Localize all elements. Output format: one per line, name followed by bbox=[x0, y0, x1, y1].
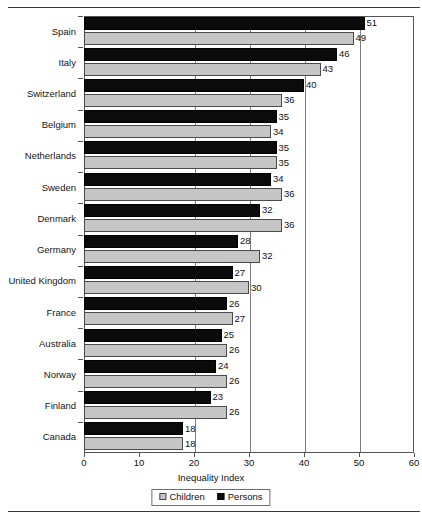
bar-persons: 26 bbox=[84, 297, 227, 310]
chart-legend: ChildrenPersons bbox=[151, 489, 270, 506]
bar-persons: 34 bbox=[84, 173, 271, 186]
category-label-finland: Finland bbox=[45, 401, 76, 411]
category-tick bbox=[78, 266, 83, 267]
x-axis-title: Inequality Index bbox=[0, 472, 422, 483]
x-axis-tick-labels: 0102030405060 bbox=[84, 458, 414, 472]
bar-persons: 23 bbox=[84, 391, 211, 404]
category-tick bbox=[78, 422, 83, 423]
category-tick bbox=[78, 297, 83, 298]
figure-page: SpainItalySwitzerlandBelgiumNetherlandsS… bbox=[0, 0, 422, 518]
bar-children: 32 bbox=[84, 250, 260, 263]
bar-group: 2627 bbox=[84, 297, 414, 328]
bar-value-label: 26 bbox=[229, 376, 240, 386]
category-label-australia: Australia bbox=[39, 339, 76, 349]
legend-entry-persons: Persons bbox=[218, 492, 263, 502]
category-label-denmark: Denmark bbox=[37, 214, 76, 224]
category-label-belgium: Belgium bbox=[42, 121, 76, 131]
bar-group: 2426 bbox=[84, 359, 414, 390]
category-label-netherlands: Netherlands bbox=[25, 152, 76, 162]
category-label-sweden: Sweden bbox=[42, 183, 76, 193]
bar-value-label: 25 bbox=[224, 330, 235, 340]
bar-children: 26 bbox=[84, 344, 227, 357]
category-label-germany: Germany bbox=[37, 245, 76, 255]
bar-group: 3436 bbox=[84, 172, 414, 203]
x-tick-label-0: 0 bbox=[81, 458, 86, 468]
bar-value-label: 35 bbox=[279, 112, 290, 122]
bar-value-label: 26 bbox=[229, 345, 240, 355]
bar-value-label: 35 bbox=[279, 143, 290, 153]
bar-value-label: 35 bbox=[279, 158, 290, 168]
bar-children: 36 bbox=[84, 94, 282, 107]
legend-label: Children bbox=[169, 492, 204, 502]
bar-persons: 46 bbox=[84, 48, 337, 61]
bar-children: 36 bbox=[84, 188, 282, 201]
bar-group: 5149 bbox=[84, 16, 414, 47]
bar-group: 2730 bbox=[84, 266, 414, 297]
bar-value-label: 26 bbox=[229, 299, 240, 309]
bar-value-label: 36 bbox=[284, 189, 295, 199]
figure-title-clipped bbox=[0, 0, 422, 5]
legend-entry-children: Children bbox=[159, 492, 204, 502]
bar-children: 49 bbox=[84, 32, 354, 45]
bar-children: 26 bbox=[84, 406, 227, 419]
category-tick bbox=[78, 47, 83, 48]
bar-value-label: 40 bbox=[306, 81, 317, 91]
bar-value-label: 24 bbox=[218, 361, 229, 371]
bar-value-label: 32 bbox=[262, 252, 273, 262]
bar-group: 3534 bbox=[84, 110, 414, 141]
category-label-norway: Norway bbox=[44, 370, 76, 380]
category-tick bbox=[78, 78, 83, 79]
bar-group: 2832 bbox=[84, 234, 414, 265]
bar-value-label: 46 bbox=[339, 49, 350, 59]
bar-persons: 18 bbox=[84, 422, 183, 435]
category-label-united-kingdom: United Kingdom bbox=[8, 277, 76, 287]
category-label-switzerland: Switzerland bbox=[27, 89, 76, 99]
bar-group: 4036 bbox=[84, 78, 414, 109]
bar-group: 4643 bbox=[84, 47, 414, 78]
category-tick bbox=[78, 172, 83, 173]
bar-persons: 32 bbox=[84, 204, 260, 217]
bar-value-label: 26 bbox=[229, 408, 240, 418]
bar-children: 18 bbox=[84, 437, 183, 450]
bar-children: 43 bbox=[84, 63, 321, 76]
category-tick bbox=[78, 328, 83, 329]
bar-persons: 25 bbox=[84, 329, 222, 342]
category-tick bbox=[78, 16, 83, 17]
category-tick bbox=[78, 391, 83, 392]
x-tick-label-10: 10 bbox=[134, 458, 145, 468]
bar-value-label: 30 bbox=[251, 283, 262, 293]
bar-children: 27 bbox=[84, 312, 233, 325]
bar-value-label: 43 bbox=[323, 64, 334, 74]
category-tick bbox=[78, 359, 83, 360]
category-tick bbox=[78, 141, 83, 142]
category-label-spain: Spain bbox=[52, 27, 76, 37]
bar-value-label: 23 bbox=[213, 393, 224, 403]
bar-value-label: 36 bbox=[284, 96, 295, 106]
bar-persons: 35 bbox=[84, 141, 277, 154]
bar-children: 35 bbox=[84, 156, 277, 169]
bar-value-label: 34 bbox=[273, 127, 284, 137]
category-axis-labels: SpainItalySwitzerlandBelgiumNetherlandsS… bbox=[0, 16, 80, 453]
bar-children: 36 bbox=[84, 219, 282, 232]
bar-group: 2326 bbox=[84, 390, 414, 421]
x-tick-label-60: 60 bbox=[409, 458, 420, 468]
bar-persons: 51 bbox=[84, 17, 365, 30]
bar-children: 26 bbox=[84, 375, 227, 388]
bar-persons: 35 bbox=[84, 110, 277, 123]
page-rule-top bbox=[8, 7, 420, 8]
bar-value-label: 18 bbox=[185, 439, 196, 449]
x-tick-label-30: 30 bbox=[244, 458, 255, 468]
category-tick bbox=[78, 235, 83, 236]
bar-group: 2526 bbox=[84, 328, 414, 359]
bar-value-label: 36 bbox=[284, 220, 295, 230]
bar-value-label: 28 bbox=[240, 237, 251, 247]
legend-swatch-persons bbox=[218, 493, 225, 500]
category-tick bbox=[78, 203, 83, 204]
bar-series-layer: 5149464340363534353534363236283227302627… bbox=[84, 16, 414, 453]
legend-label: Persons bbox=[228, 492, 263, 502]
bar-value-label: 18 bbox=[185, 424, 196, 434]
category-label-italy: Italy bbox=[59, 58, 76, 68]
x-tick-label-20: 20 bbox=[189, 458, 200, 468]
x-tick-label-40: 40 bbox=[299, 458, 310, 468]
bar-persons: 28 bbox=[84, 235, 238, 248]
